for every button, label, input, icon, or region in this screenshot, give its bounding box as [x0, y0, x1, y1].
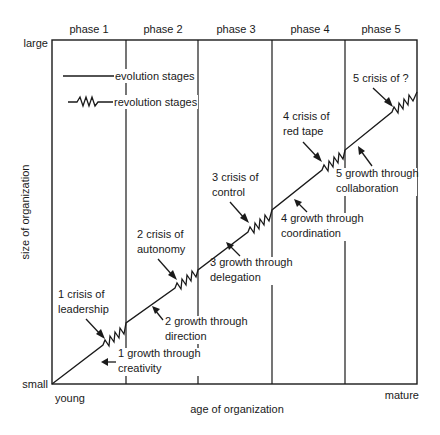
growth-2-arrowhead-icon — [152, 306, 160, 314]
phase-2-label: phase 2 — [143, 23, 182, 35]
phase-3-label: phase 3 — [216, 23, 255, 35]
growth-1-arrowhead-icon — [101, 358, 108, 366]
growth-2-line2: direction — [165, 330, 207, 342]
crisis-4-line2: red tape — [283, 125, 323, 137]
crisis-3: 3 crisis of control — [212, 171, 259, 223]
x-axis-mature-label: mature — [385, 389, 419, 401]
crisis-2-line2: autonomy — [137, 243, 186, 255]
growth-phases-diagram: phase 1 phase 2 phase 3 phase 4 phase 5 … — [0, 0, 440, 435]
y-axis-title: size of organization — [19, 165, 31, 260]
crisis-5: 5 crisis of ? — [353, 72, 409, 107]
growth-5-line1: 5 growth through — [336, 167, 419, 179]
crisis-3-line2: control — [212, 186, 245, 198]
crisis-5-line1: 5 crisis of ? — [353, 72, 409, 84]
growth-4-line1: 4 growth through — [281, 212, 364, 224]
x-axis-young-label: young — [55, 392, 85, 404]
growth-3-line2: delegation — [210, 271, 261, 283]
phase-5-label: phase 5 — [361, 23, 400, 35]
crisis-2-line1: 2 crisis of — [137, 228, 184, 240]
growth-3-line1: 3 growth through — [210, 256, 293, 268]
crisis-1: 1 crisis of leadership — [58, 288, 109, 339]
growth-5-line2: collaboration — [336, 182, 398, 194]
crisis-3-line1: 3 crisis of — [212, 171, 259, 183]
legend: evolution stages revolution stages — [63, 69, 198, 109]
y-axis-large-label: large — [24, 37, 48, 49]
x-axis-title: age of organization — [190, 403, 284, 415]
growth-1-line2: creativity — [118, 362, 162, 374]
crisis-1-line2: leadership — [58, 303, 109, 315]
growth-5-arrow-icon — [361, 151, 372, 166]
growth-2-line1: 2 growth through — [165, 315, 248, 327]
crisis-2: 2 crisis of autonomy — [137, 228, 186, 280]
crisis-5-arrowhead-icon — [384, 97, 393, 107]
revolution-zigzag-icon — [68, 97, 113, 106]
crisis-4: 4 crisis of red tape — [283, 110, 330, 162]
crisis-1-line1: 1 crisis of — [58, 288, 105, 300]
growth-4-line2: coordination — [281, 227, 341, 239]
y-axis-small-label: small — [22, 378, 48, 390]
phase-1-label: phase 1 — [69, 23, 108, 35]
phase-4-label: phase 4 — [290, 23, 329, 35]
growth-1-line1: 1 growth through — [118, 347, 201, 359]
legend-revolution-label: revolution stages — [114, 96, 198, 108]
crisis-4-line1: 4 crisis of — [283, 110, 330, 122]
growth-5-arrowhead-icon — [358, 146, 365, 155]
legend-evolution-label: evolution stages — [115, 70, 195, 82]
